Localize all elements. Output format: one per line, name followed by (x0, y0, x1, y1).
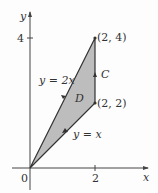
region-label: D (74, 92, 84, 105)
y-axis-arrow-icon (28, 11, 32, 17)
figure-canvas: y x 0 2 4 (2, 4) (2, 2) y = 2x y = x C D (0, 0, 158, 193)
region-d (30, 38, 95, 168)
curve-label-upper: y = 2x (38, 74, 75, 87)
point-label-mid: (2, 2) (97, 97, 127, 110)
x-axis-arrow-icon (143, 166, 149, 170)
point-label-top: (2, 4) (97, 31, 127, 44)
origin-label: 0 (21, 172, 28, 185)
region-diagram: y x 0 2 4 (2, 4) (2, 2) y = 2x y = x C D (0, 0, 158, 193)
y-axis-label: y (19, 10, 27, 23)
x-tick-label: 2 (92, 172, 99, 185)
x-axis-label: x (143, 171, 150, 184)
curve-label-lower: y = x (72, 128, 102, 141)
boundary-label: C (101, 68, 110, 81)
y-tick-label: 4 (17, 32, 24, 45)
